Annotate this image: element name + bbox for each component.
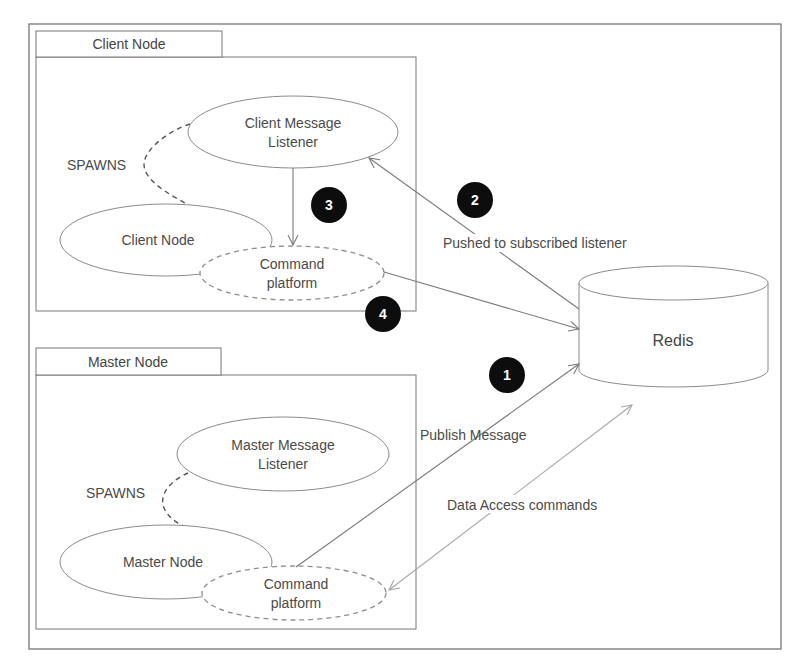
client-node-tab-label: Client Node — [92, 36, 165, 52]
master-message-listener — [177, 417, 389, 491]
redis-datastore: Redis — [579, 266, 768, 387]
master-listener-label-2: Listener — [258, 456, 308, 472]
client-command-label-2: platform — [267, 275, 318, 291]
client-listener-label-2: Listener — [268, 134, 318, 150]
master-listener-label-1: Master Message — [231, 437, 335, 453]
master-node-label: Master Node — [123, 554, 203, 570]
edge-1-label: Publish Message — [420, 427, 527, 443]
client-spawns-label: SPAWNS — [67, 157, 126, 173]
step-1-number: 1 — [503, 367, 511, 383]
redis-label: Redis — [653, 332, 694, 349]
edge-2-label: Pushed to subscribed listener — [443, 235, 627, 251]
master-node-group: Master Node SPAWNS Master Message Listen… — [36, 348, 416, 629]
client-message-listener — [188, 96, 398, 168]
master-command-label-1: Command — [264, 576, 329, 592]
master-spawns-label: SPAWNS — [86, 485, 145, 501]
client-node-label: Client Node — [121, 232, 194, 248]
master-command-label-2: platform — [271, 595, 322, 611]
master-command-platform — [202, 566, 386, 620]
master-node-tab-label: Master Node — [88, 354, 168, 370]
client-listener-label-1: Client Message — [245, 115, 342, 131]
step-2-number: 2 — [471, 192, 479, 208]
client-node-group: Client Node SPAWNS Client Message Listen… — [36, 31, 416, 311]
data-access-label: Data Access commands — [447, 497, 597, 513]
architecture-diagram: Client Node SPAWNS Client Message Listen… — [0, 0, 805, 671]
step-3-number: 3 — [325, 197, 333, 213]
redis-cylinder-top — [579, 266, 768, 300]
client-command-label-1: Command — [260, 256, 325, 272]
client-command-platform — [200, 246, 384, 300]
step-4-number: 4 — [379, 306, 387, 322]
